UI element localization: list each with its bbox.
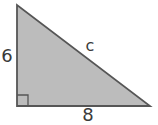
geometry-figure: 6 8 c xyxy=(0,0,158,125)
horizontal-leg-label: 8 xyxy=(82,104,93,125)
vertical-leg-label: 6 xyxy=(1,45,12,66)
hypotenuse-label: c xyxy=(86,36,95,55)
triangle-shape xyxy=(17,5,150,106)
right-triangle-svg: 6 8 c xyxy=(0,0,158,125)
